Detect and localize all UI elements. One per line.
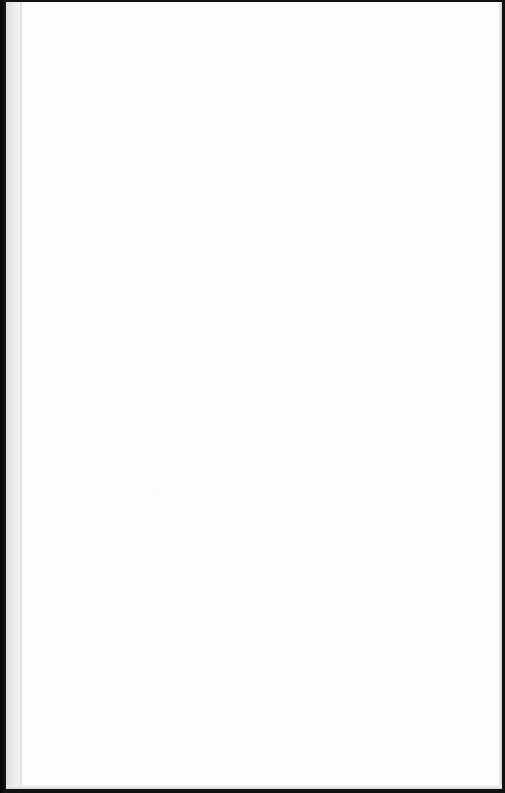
page-right-edge — [499, 2, 502, 789]
page-bottom-edge — [6, 785, 502, 789]
bleed-through-mark: · · — [152, 490, 162, 494]
page-gutter — [6, 2, 20, 789]
gutter-fold-line — [20, 2, 22, 789]
blank-page: · · — [6, 2, 502, 789]
